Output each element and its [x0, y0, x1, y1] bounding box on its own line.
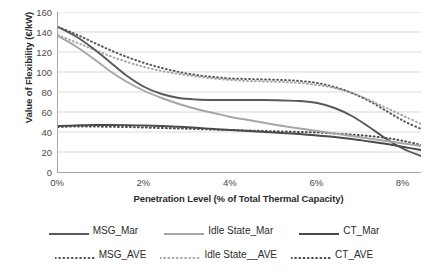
legend-swatch-solid-icon — [299, 225, 339, 235]
legend-label: MSG_Mar — [93, 225, 139, 236]
series-line-msg-ave — [58, 27, 421, 129]
series-line-ct-ave — [58, 126, 421, 145]
legend-label: Idle State_Mar — [208, 225, 273, 236]
legend-swatch-dotted-icon — [291, 249, 331, 259]
series-line-idle-state-ave — [58, 35, 421, 124]
x-tick-label: 8% — [396, 177, 410, 188]
legend-row-mar: MSG_MarIdle State_MarCT_Mar — [0, 218, 428, 242]
y-tick-label: 160 — [22, 7, 52, 18]
legend-label: CT_Mar — [343, 225, 379, 236]
chart-container: Value of Flexibility (€/kW) 020406080100… — [0, 0, 428, 275]
series-lines — [58, 12, 421, 172]
y-tick-label: 40 — [22, 127, 52, 138]
y-tick-label: 140 — [22, 27, 52, 38]
legend-item[interactable]: MSG_AVE — [55, 249, 147, 260]
y-tick-label: 120 — [22, 47, 52, 58]
x-axis-title: Penetration Level (% of Total Thermal Ca… — [57, 193, 420, 204]
legend-row-ave: MSG_AVEIdle State__AVECT_AVE — [0, 242, 428, 266]
y-tick-label: 0 — [22, 167, 52, 178]
legend-swatch-solid-icon — [164, 225, 204, 235]
legend-item[interactable]: Idle State__AVE — [160, 249, 277, 260]
legend-item[interactable]: CT_Mar — [299, 225, 379, 236]
y-tick-label: 60 — [22, 107, 52, 118]
legend-item[interactable]: Idle State_Mar — [164, 225, 273, 236]
y-tick-label: 20 — [22, 147, 52, 158]
y-tick-label: 100 — [22, 67, 52, 78]
legend-swatch-dotted-icon — [160, 249, 200, 259]
legend-swatch-dotted-icon — [55, 249, 95, 259]
legend-label: CT_AVE — [335, 249, 373, 260]
legend-label: Idle State__AVE — [204, 249, 277, 260]
legend-label: MSG_AVE — [99, 249, 147, 260]
plot-area — [57, 12, 421, 173]
x-tick-label: 2% — [137, 177, 151, 188]
legend-swatch-solid-icon — [49, 225, 89, 235]
x-tick-label: 6% — [309, 177, 323, 188]
x-tick-label: 4% — [223, 177, 237, 188]
chart-legend: MSG_MarIdle State_MarCT_Mar MSG_AVEIdle … — [0, 218, 428, 266]
legend-item[interactable]: CT_AVE — [291, 249, 373, 260]
legend-item[interactable]: MSG_Mar — [49, 225, 139, 236]
y-tick-label: 80 — [22, 87, 52, 98]
x-tick-label: 0% — [50, 177, 64, 188]
